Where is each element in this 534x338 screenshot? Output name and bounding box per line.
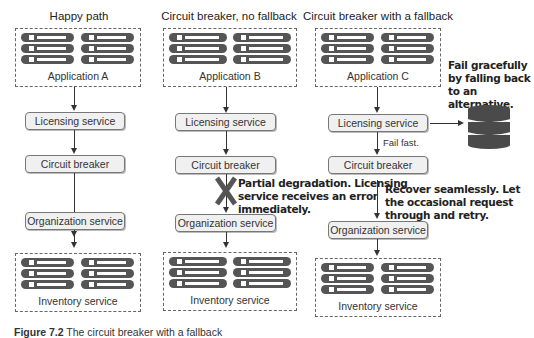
fail-fast-label: Fail fast. (383, 137, 419, 148)
inventory-service-box: Inventory service (15, 253, 141, 312)
column-title: Circuit breaker with a fallback (303, 10, 453, 22)
licensing-service-box: Licensing service (175, 113, 276, 131)
fallback-arrow-line (430, 123, 460, 124)
inventory-label: Inventory service (16, 295, 140, 307)
application-label: Application B (164, 70, 296, 82)
figure-label: Figure 7.2 (14, 326, 64, 338)
arrow-line (377, 180, 378, 214)
inventory-label: Inventory service (316, 300, 440, 312)
circuit-breaker-box: Circuit breaker (328, 156, 428, 174)
arrow-down-icon (71, 148, 77, 154)
application-a-box: Application A (15, 28, 141, 87)
application-label: Application A (16, 70, 140, 82)
arrow-down-icon (374, 213, 380, 219)
arrow-line (377, 132, 378, 150)
arrow-down-icon (223, 207, 229, 213)
arrow-down-icon (223, 242, 229, 248)
application-b-box: Application B (163, 28, 297, 87)
database-icon (467, 104, 511, 150)
arrow-down-icon (223, 149, 229, 155)
organization-service-box: Organization service (175, 214, 276, 232)
application-label: Application C (316, 70, 440, 82)
circuit-breaker-box: Circuit breaker (175, 156, 276, 174)
arrow-line (226, 131, 227, 150)
organization-service-box: Organization service (25, 212, 125, 230)
arrow-right-icon (458, 120, 464, 126)
arrow-line (74, 130, 75, 149)
arrow-down-icon (374, 149, 380, 155)
column-title: Happy path (50, 10, 109, 22)
x-mark-icon (214, 176, 238, 206)
arrow-down-icon (71, 242, 77, 248)
arrow-line (74, 87, 75, 106)
circuit-breaker-box: Circuit breaker (25, 155, 125, 173)
inventory-label: Inventory service (164, 294, 296, 306)
application-c-box: Application C (315, 28, 441, 87)
figure-text: The circuit breaker with a fallback (66, 326, 222, 338)
figure-caption: Figure 7.2 The circuit breaker with a fa… (14, 326, 222, 338)
arrow-down-icon (374, 107, 380, 113)
licensing-service-box: Licensing service (328, 114, 428, 132)
arrow-down-icon (71, 105, 77, 111)
arrow-down-icon (374, 250, 380, 256)
column-title: Circuit breaker, no fallback (161, 10, 297, 22)
organization-service-box: Organization service (328, 221, 428, 239)
licensing-service-box: Licensing service (25, 112, 125, 130)
partial-degradation-callout: Partial degradation. Licensing service r… (238, 177, 408, 216)
arrow-line (226, 87, 227, 108)
arrow-line (377, 87, 378, 108)
inventory-service-box: Inventory service (315, 258, 441, 317)
recover-callout: Recover seamlessly. Let the occasional r… (385, 183, 520, 222)
inventory-service-box: Inventory service (163, 252, 297, 311)
